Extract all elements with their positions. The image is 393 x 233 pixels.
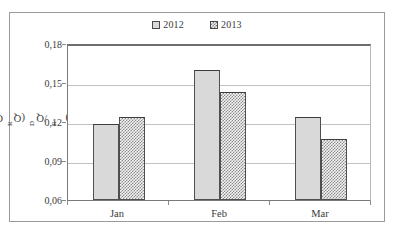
y-axis-tick-marks [10, 44, 70, 201]
y-tick-mark [62, 83, 66, 84]
bar-group-jan [68, 46, 169, 200]
y-tick-mark [62, 161, 66, 162]
y-tick-mark [62, 122, 66, 123]
legend-entry-2013: 2013 [210, 20, 242, 30]
bar-feb-2012 [194, 70, 220, 200]
bar-group-feb [169, 46, 270, 200]
x-axis-tick-marks [67, 201, 371, 206]
chart-legend: 2012 2013 [10, 17, 384, 33]
x-tick-mark [67, 201, 68, 205]
legend-entry-2012: 2012 [152, 20, 184, 30]
x-tick-label-feb: Feb [211, 207, 227, 221]
plot-area [67, 44, 371, 201]
y-tick-mark [62, 44, 66, 45]
legend-label-2012: 2012 [163, 20, 184, 30]
bar-mar-2013 [321, 139, 347, 200]
bar-feb-2013 [220, 92, 246, 200]
bar-jan-2012 [93, 124, 119, 200]
bar-mar-2012 [295, 117, 321, 200]
chart-figure: 2012 2013 CVR(QD/QR) 0,18 0,15 0,12 0,09… [9, 12, 385, 222]
x-tick-label-jan: Jan [110, 207, 124, 221]
x-tick-mark [168, 201, 169, 205]
bar-group-mar [271, 46, 372, 200]
legend-swatch-icon-2012 [152, 21, 160, 29]
x-tick-mark [269, 201, 270, 205]
bar-jan-2013 [119, 117, 145, 200]
x-axis-tick-labels: Jan Feb Mar [67, 207, 371, 223]
y-axis-title-main: CV [0, 113, 3, 124]
x-tick-mark [370, 201, 371, 205]
legend-label-2013: 2013 [221, 20, 242, 30]
y-tick-mark [62, 200, 66, 201]
x-tick-label-mar: Mar [311, 207, 329, 221]
legend-swatch-icon-2013 [210, 21, 218, 29]
